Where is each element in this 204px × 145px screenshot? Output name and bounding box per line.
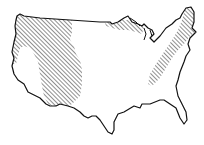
hatched-region-west [10, 10, 82, 108]
hatched-region-northeast [148, 6, 198, 86]
us-map [0, 0, 204, 145]
